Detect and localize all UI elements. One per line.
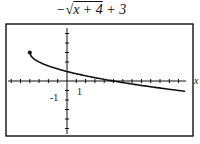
plot-frame [6,24,193,136]
x-tick-label-1: 1 [77,86,82,97]
function-curve [30,53,185,92]
y-tick-label-neg1: -1 [50,92,58,103]
start-point-marker [28,51,32,55]
x-axis-label: x [193,75,199,86]
function-plot: 1 -1 x [0,0,200,144]
